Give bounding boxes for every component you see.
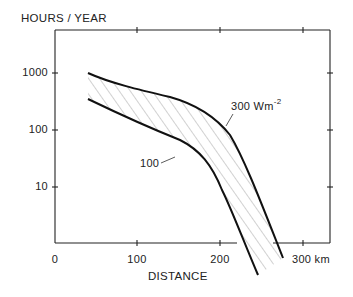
x-axis-label: DISTANCE — [148, 270, 208, 282]
y-axis-label: HOURS / YEAR — [21, 12, 107, 24]
annotation-100: 100 — [140, 157, 159, 169]
annotation-300-text: 300 Wm — [231, 100, 274, 112]
x-tick-0: 0 — [35, 253, 75, 265]
x-tick-200: 200 — [200, 253, 240, 265]
annotation-300-sup: -2 — [274, 97, 282, 106]
y-tick-1000: 1000 — [8, 66, 48, 78]
leader-line-300 — [226, 114, 233, 126]
x-tick-300: 300 km — [292, 253, 330, 265]
annotation-300-wm2: 300 Wm-2 — [231, 100, 281, 112]
y-tick-100: 100 — [8, 123, 48, 135]
leader-line-100 — [161, 157, 175, 163]
y-tick-10: 10 — [8, 180, 48, 192]
x-tick-100: 100 — [117, 253, 157, 265]
